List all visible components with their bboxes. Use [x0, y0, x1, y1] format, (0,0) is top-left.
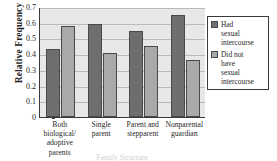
y-tick-label: 0.2	[16, 83, 36, 91]
bar	[186, 60, 200, 117]
bar	[171, 15, 185, 117]
legend-label-line: intercourse	[221, 38, 254, 47]
bar	[46, 49, 60, 117]
legend-label-line: sexual	[221, 68, 254, 77]
x-category-label-line: biological/	[39, 129, 81, 138]
legend-label: Did nothavesexualintercourse	[221, 50, 254, 86]
y-tick-label: 0.6	[16, 20, 36, 28]
bar-group	[82, 8, 124, 117]
y-tick-mark	[52, 118, 55, 119]
x-category-label: Nonparentalguardian	[164, 120, 206, 138]
y-tick-label: 0.4	[16, 51, 36, 59]
legend-label-line: Had	[221, 20, 254, 29]
bar	[103, 53, 117, 117]
x-category-label: Singleparent	[81, 120, 123, 138]
x-category-label-line: Single	[81, 120, 123, 129]
y-tick-label: 0	[16, 114, 36, 122]
bar	[144, 46, 158, 117]
x-category-label-line: guardian	[164, 129, 206, 138]
x-category-label: Parent andstepparent	[122, 120, 164, 138]
chart-legend: HadsexualintercourseDid nothavesexualint…	[207, 16, 269, 90]
x-category-label-line: stepparent	[122, 129, 164, 138]
x-category-label: Bothbiological/adoptiveparents	[39, 120, 81, 157]
y-tick-label: 0.3	[16, 67, 36, 75]
bar-group	[123, 8, 165, 117]
x-category-label-line: parent	[81, 129, 123, 138]
x-axis-title: Family Structure	[39, 153, 205, 161]
bar	[61, 26, 75, 117]
bar-chart: Relative Frequency 00.10.20.30.40.50.60.…	[0, 0, 277, 161]
bar	[129, 31, 143, 117]
legend-label: Hadsexualintercourse	[221, 20, 254, 47]
y-tick-label: 0.5	[16, 35, 36, 43]
bar-group	[165, 8, 207, 117]
plot-area	[39, 8, 205, 118]
x-category-label-line: Nonparental	[164, 120, 206, 129]
bars-layer	[40, 8, 205, 117]
legend-label-line: have	[221, 59, 254, 68]
y-axis-tick-labels: 00.10.20.30.40.50.60.7	[16, 8, 36, 118]
y-tick-label: 0.1	[16, 98, 36, 106]
legend-swatch-icon	[211, 21, 218, 28]
y-tick-label: 0.7	[16, 4, 36, 12]
legend-label-line: sexual	[221, 29, 254, 38]
x-category-label-line: Parent and	[122, 120, 164, 129]
legend-item[interactable]: Hadsexualintercourse	[211, 20, 266, 47]
bar	[88, 24, 102, 117]
legend-item[interactable]: Did nothavesexualintercourse	[211, 50, 266, 86]
legend-swatch-icon	[211, 51, 218, 58]
bar-group	[40, 8, 82, 117]
x-category-label-line: adoptive	[39, 138, 81, 147]
x-category-label-line: Both	[39, 120, 81, 129]
legend-label-line: intercourse	[221, 77, 254, 86]
legend-label-line: Did not	[221, 50, 254, 59]
